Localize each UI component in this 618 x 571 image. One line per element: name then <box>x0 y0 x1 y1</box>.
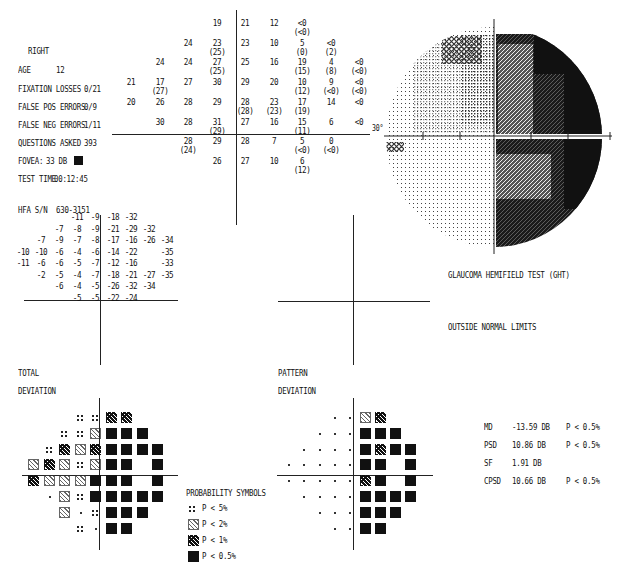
probability-symbol-pt <box>334 464 336 466</box>
cell-value: 24 <box>179 39 198 48</box>
probability-symbol-blk <box>137 444 148 455</box>
cell-value: 29 <box>236 78 255 87</box>
grid-cell: -5 <box>68 294 87 303</box>
grid-cell: 16 <box>264 58 283 67</box>
probability-symbol-blk <box>405 475 416 486</box>
cell-value: -4 <box>68 271 87 280</box>
cell-value: 30 <box>207 78 226 87</box>
probability-symbol-blk <box>106 459 117 470</box>
cell-value: -2 <box>32 271 51 280</box>
probability-symbol-blk <box>106 475 117 486</box>
cell-value: -5 <box>68 259 87 268</box>
probability-symbol-blk <box>106 523 117 534</box>
cell-value: 28 <box>179 118 198 127</box>
grid-cell: 29 <box>207 98 226 107</box>
cell-value: -10 <box>32 248 51 257</box>
cell-value: -32 <box>140 225 159 234</box>
grid-cell: -34 <box>158 236 177 245</box>
cell-value: (0) <box>293 48 312 57</box>
probability-symbol-hatch2 <box>59 507 70 518</box>
grid-cell: <0 <box>350 98 369 107</box>
grid-cell: 19 <box>207 19 226 28</box>
cell-value: (2) <box>321 48 340 57</box>
grid-cell: -27 <box>140 271 159 280</box>
grid-cell: 31(29) <box>207 118 226 136</box>
cell-value: -6 <box>32 259 51 268</box>
grid-cell: 17(27) <box>150 78 169 96</box>
grid-cell: -5 <box>68 259 87 268</box>
cell-value: (<0) <box>350 67 369 76</box>
cell-value: (<0) <box>350 87 369 96</box>
grid-cell: 17(19) <box>293 98 312 116</box>
grid-cell: 27(25) <box>207 58 226 76</box>
cell-value: 28 <box>236 137 255 146</box>
cell-value: -9 <box>86 213 105 222</box>
probability-symbol-pt <box>303 449 305 451</box>
pattern-deviation-label-1: PATTERN <box>278 368 307 378</box>
cell-value: (24) <box>179 146 198 155</box>
probability-symbol-blk <box>121 523 132 534</box>
probability-symbol-hatch1 <box>106 412 117 423</box>
cell-value: -4 <box>68 282 87 291</box>
cell-value: -34 <box>158 236 177 245</box>
probability-symbol-pt <box>334 433 336 435</box>
probability-symbol-blk <box>106 507 117 518</box>
cell-value: (12) <box>293 87 312 96</box>
probability-symbol-dot5 <box>76 430 85 437</box>
grid-cell: -5 <box>50 271 69 280</box>
cell-value: -34 <box>140 282 159 291</box>
probability-symbol-pt <box>319 512 321 514</box>
grid-cell: -16 <box>122 236 141 245</box>
index-p-value: P < 0.5% <box>566 422 600 432</box>
cell-value: 10 <box>264 39 283 48</box>
grid-cell: 28 <box>236 137 255 146</box>
cell-value: 16 <box>264 118 283 127</box>
ght-result: OUTSIDE NORMAL LIMITS <box>448 322 536 332</box>
cell-value: -9 <box>50 236 69 245</box>
grid-cell: 6 <box>321 118 340 127</box>
cell-value: 26 <box>207 157 226 166</box>
probability-symbol-blk <box>106 444 117 455</box>
cell-value: -11 <box>68 213 87 222</box>
legend-symbol-hatch2-icon <box>188 519 199 530</box>
probability-symbol-pt <box>334 512 336 514</box>
grid-cell: 23 <box>236 39 255 48</box>
cell-value: 7 <box>264 137 283 146</box>
index-p-value: P < 0.5% <box>566 440 600 450</box>
cell-value: -29 <box>122 225 141 234</box>
cell-value: (25) <box>207 48 226 57</box>
cell-value: -7 <box>50 225 69 234</box>
legend-symbol-dot5-icon <box>188 505 197 512</box>
cell-value: 27 <box>236 118 255 127</box>
grid-cell: -7 <box>50 225 69 234</box>
probability-symbol-blk <box>390 444 401 455</box>
probability-symbol-hatch2 <box>90 428 101 439</box>
probability-symbol-blk <box>360 523 371 534</box>
cell-value: 23 <box>236 39 255 48</box>
cell-value: -8 <box>86 236 105 245</box>
index-name: SF <box>484 458 492 468</box>
grid-cell: -8 <box>86 236 105 245</box>
probability-symbol-hatch1 <box>59 444 70 455</box>
probability-symbol-pt <box>334 417 336 419</box>
threshold-horizontal-axis <box>112 134 370 135</box>
grid-cell: -11 <box>14 259 33 268</box>
probability-symbol-dot5 <box>76 525 85 532</box>
cell-value: 30 <box>150 118 169 127</box>
grid-cell: -32 <box>140 225 159 234</box>
cell-value: 28 <box>179 98 198 107</box>
cell-value: 29 <box>207 98 226 107</box>
grid-cell: -34 <box>140 282 159 291</box>
grid-cell: -9 <box>86 213 105 222</box>
grid-cell: 23(23) <box>264 98 283 116</box>
probability-symbol-pt <box>349 512 351 514</box>
legend-label: P < 1% <box>202 535 227 545</box>
grid-cell: -10 <box>32 248 51 257</box>
grid-cell: -6 <box>50 248 69 257</box>
cell-value: -5 <box>68 294 87 303</box>
cell-value: -22 <box>104 294 123 303</box>
probability-symbol-pt <box>288 480 290 482</box>
grid-cell: 27 <box>236 157 255 166</box>
cell-value: -16 <box>122 236 141 245</box>
grid-cell: -26 <box>104 282 123 291</box>
